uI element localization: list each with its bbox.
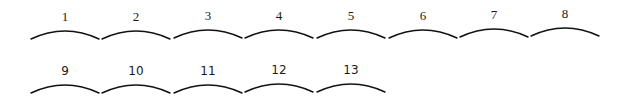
- arc-label: 9: [30, 64, 100, 78]
- arc-label: 3: [173, 9, 243, 23]
- arc-icon: [316, 23, 386, 39]
- arc-item: 4: [244, 9, 314, 49]
- arc-label: 13: [316, 63, 386, 77]
- arc-item: 1: [30, 10, 100, 50]
- arc-label: 4: [244, 9, 314, 23]
- arc-label: 8: [530, 7, 600, 21]
- arc-item: 9: [30, 64, 100, 103]
- arc-label: 6: [388, 9, 458, 23]
- arc-icon: [388, 23, 458, 39]
- arc-icon: [173, 23, 243, 39]
- arc-label: 2: [101, 10, 171, 24]
- arc-icon: [30, 78, 100, 94]
- arc-item: 3: [173, 9, 243, 49]
- arc-item: 6: [388, 9, 458, 49]
- arc-item: 7: [459, 8, 529, 48]
- arc-icon: [101, 78, 171, 94]
- arc-item: 12: [244, 63, 314, 103]
- arc-item: 5: [316, 9, 386, 49]
- arc-icon: [244, 77, 314, 93]
- arc-item: 2: [101, 10, 171, 50]
- arc-icon: [530, 21, 600, 37]
- arc-icon: [244, 23, 314, 39]
- arc-icon: [101, 24, 171, 40]
- arc-label: 5: [316, 9, 386, 23]
- arc-icon: [459, 22, 529, 38]
- arc-item: 11: [173, 64, 243, 103]
- arc-label: 7: [459, 8, 529, 22]
- arc-icon: [30, 24, 100, 40]
- arc-item: 13: [316, 63, 386, 103]
- arc-label: 1: [30, 10, 100, 24]
- arc-label: 11: [173, 64, 243, 78]
- arc-icon: [173, 78, 243, 94]
- arc-item: 8: [530, 7, 600, 47]
- arc-icon: [316, 77, 386, 93]
- arc-item: 10: [101, 64, 171, 103]
- arc-label: 10: [101, 64, 171, 78]
- arc-label: 12: [244, 63, 314, 77]
